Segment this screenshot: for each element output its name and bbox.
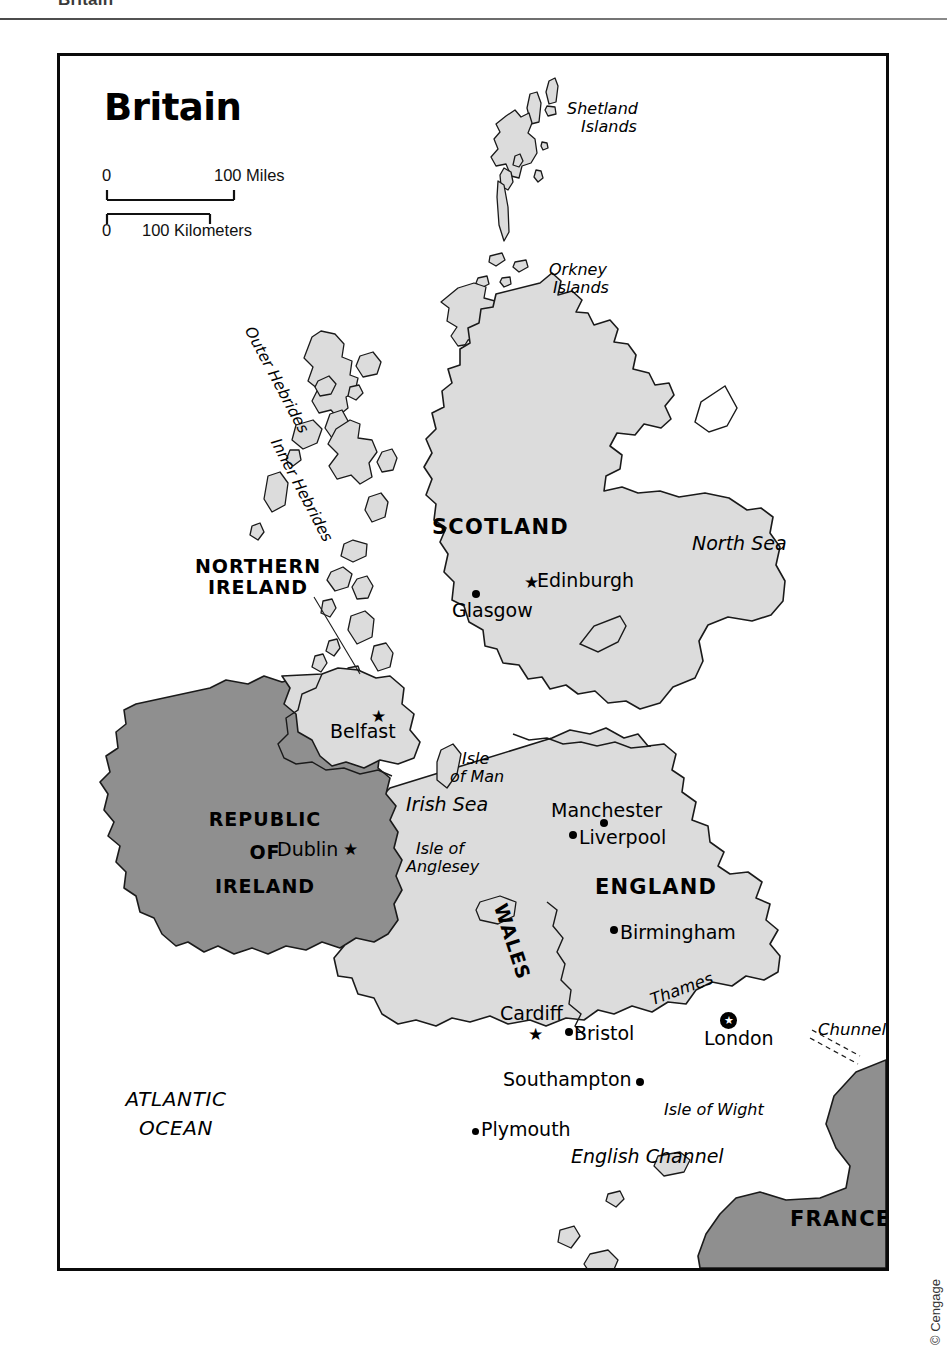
atlantic-ocean-label: ATLANTIC OCEAN (96, 1085, 256, 1143)
chunnel-label: Chunnel (818, 1021, 886, 1039)
page-header: Britain (0, 0, 947, 22)
isle-of-man-label: Isle of Man (462, 750, 504, 787)
isle-of-wight-label: Isle of Wight (664, 1101, 764, 1119)
north-sea-label: North Sea (692, 533, 787, 554)
irish-sea-label: Irish Sea (406, 794, 488, 815)
channel-island-2 (558, 1226, 580, 1248)
scotland-landmass (424, 273, 785, 709)
southampton-marker (636, 1078, 644, 1086)
anglesey-label: Isle of Anglesey (416, 840, 479, 877)
map-title: Britain (104, 86, 241, 129)
shetland-islands-label: Shetland Islands (567, 100, 638, 137)
page-header-title: Britain (58, 0, 113, 10)
glasgow-marker (472, 590, 480, 598)
map-frame: .land-l { fill: #dcdcdc; stroke: #1a1a1a… (57, 53, 889, 1271)
liverpool-label: Liverpool (579, 827, 666, 848)
liverpool-marker (569, 831, 577, 839)
orkney-islands-label: Orkney Islands (549, 261, 609, 298)
shetland-islands-shape (491, 78, 558, 241)
scale-bar-block: 0 100 Miles 0 100 Kilometers (100, 166, 330, 256)
channel-island-1 (606, 1191, 624, 1207)
bristol-label: Bristol (574, 1023, 634, 1044)
belfast-label: Belfast (330, 721, 396, 742)
northern-ireland-label: NORTHERN IRELAND (178, 556, 338, 597)
cardiff-marker: ★ (528, 1026, 543, 1043)
dublin-marker: ★ (343, 841, 358, 858)
plymouth-marker (472, 1128, 479, 1135)
channel-island-3 (584, 1250, 618, 1268)
southampton-label: Southampton (503, 1069, 632, 1090)
english-channel-label: English Channel (571, 1146, 724, 1167)
france-landmass (698, 1060, 886, 1268)
birmingham-label: Birmingham (620, 922, 736, 943)
copyright-notice: © Cengage (928, 1279, 943, 1345)
france-label: FRANCE (790, 1208, 889, 1231)
manchester-label: Manchester (551, 800, 662, 821)
england-label: ENGLAND (595, 876, 717, 899)
scale-bar-graphic (100, 166, 330, 256)
scale-km-zero: 0 (102, 221, 111, 240)
dublin-label: Dublin (277, 839, 338, 860)
london-label: London (704, 1028, 774, 1049)
scotland-label: SCOTLAND (432, 516, 569, 539)
cardiff-label: Cardiff (500, 1003, 563, 1024)
scale-km-value: 100 Kilometers (142, 221, 252, 240)
plymouth-label: Plymouth (481, 1119, 571, 1140)
glasgow-label: Glasgow (452, 600, 533, 621)
bristol-marker (565, 1028, 573, 1036)
header-divider (0, 18, 947, 20)
edinburgh-label: Edinburgh (537, 570, 634, 591)
birmingham-marker (610, 926, 618, 934)
